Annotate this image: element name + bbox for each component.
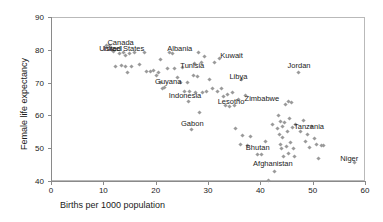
data-point xyxy=(280,125,284,129)
point-label-albania: Albania xyxy=(167,45,192,53)
data-points-layer: CanadaUnited StatesIsraelAlbaniaKuwaitTu… xyxy=(51,17,365,181)
point-label-lesotho: Lesotho xyxy=(218,98,245,106)
data-point xyxy=(114,64,118,68)
data-point xyxy=(126,70,130,74)
y-tick-label: 50 xyxy=(35,144,44,153)
point-label-bhutan: Bhutan xyxy=(246,144,270,152)
y-tick-mark xyxy=(48,17,51,18)
point-label-zimbabwe: Zimbabwe xyxy=(245,95,280,103)
point-label-libya: Libya xyxy=(229,73,247,81)
data-point xyxy=(290,100,294,104)
x-tick-mark xyxy=(208,182,209,185)
x-tick-mark xyxy=(51,182,52,185)
data-point xyxy=(282,154,286,158)
x-tick-label: 10 xyxy=(99,186,108,195)
data-point xyxy=(288,117,292,121)
y-axis-title: Female life expectancy xyxy=(19,34,29,174)
data-point xyxy=(186,99,190,103)
y-tick-mark xyxy=(48,50,51,51)
data-point xyxy=(303,140,307,144)
point-label-guyana: Guyana xyxy=(155,79,181,87)
data-point xyxy=(279,147,283,151)
data-point xyxy=(259,152,263,156)
data-point xyxy=(289,140,293,144)
data-point xyxy=(234,127,238,131)
x-tick-mark xyxy=(260,182,261,185)
point-label-tunisia: Tunisia xyxy=(180,62,204,70)
data-point xyxy=(273,169,277,173)
data-point xyxy=(207,77,211,81)
y-tick-mark xyxy=(48,181,51,182)
data-point xyxy=(285,130,289,134)
point-label-kuwait: Kuwait xyxy=(220,52,243,60)
x-axis-title: Births per 1000 population xyxy=(60,200,165,210)
data-point xyxy=(129,64,133,68)
data-point xyxy=(219,86,223,90)
data-point xyxy=(215,90,219,94)
data-point xyxy=(275,126,279,130)
data-point xyxy=(284,144,288,148)
data-point xyxy=(212,60,216,64)
data-point xyxy=(313,136,317,140)
point-label-israel: Israel xyxy=(104,46,122,54)
data-point xyxy=(157,70,161,74)
y-tick-label: 40 xyxy=(35,177,44,186)
data-point xyxy=(271,122,275,126)
data-point xyxy=(210,86,214,90)
x-tick-mark xyxy=(156,182,157,185)
data-point xyxy=(292,146,296,150)
x-tick-label: 30 xyxy=(204,186,213,195)
data-point xyxy=(205,89,209,93)
scatter-plot-figure: CanadaUnited StatesIsraelAlbaniaKuwaitTu… xyxy=(0,0,383,222)
y-tick-mark xyxy=(48,83,51,84)
data-point xyxy=(230,90,234,94)
data-point xyxy=(185,80,189,84)
data-point xyxy=(151,68,155,72)
data-point xyxy=(293,155,297,159)
x-tick-mark xyxy=(103,182,104,185)
data-point xyxy=(195,74,199,78)
data-point xyxy=(196,50,200,54)
y-tick-mark xyxy=(48,115,51,116)
y-tick-mark xyxy=(48,148,51,149)
point-label-afghanistan: Afghanistan xyxy=(253,160,293,168)
data-point xyxy=(286,151,290,155)
point-label-indonesia: Indonesia xyxy=(169,92,202,100)
data-point xyxy=(166,67,170,71)
data-point xyxy=(307,146,311,150)
data-point xyxy=(240,133,244,137)
data-point xyxy=(296,71,300,75)
x-tick-mark xyxy=(365,182,366,185)
x-tick-label: 40 xyxy=(256,186,265,195)
point-label-tanzania: Tanzania xyxy=(294,123,324,131)
point-label-jordan: Jordan xyxy=(288,62,311,70)
data-point xyxy=(283,103,287,107)
data-point xyxy=(172,66,176,70)
x-tick-mark xyxy=(313,182,314,185)
data-point xyxy=(276,114,280,118)
data-point xyxy=(159,58,163,62)
data-point xyxy=(281,136,285,140)
point-label-niger: Niger xyxy=(340,156,358,164)
x-tick-label: 0 xyxy=(49,186,53,195)
y-tick-label: 80 xyxy=(35,45,44,54)
data-point xyxy=(305,132,309,136)
data-point xyxy=(249,135,253,139)
data-point xyxy=(123,64,127,68)
y-tick-label: 70 xyxy=(35,78,44,87)
x-tick-label: 20 xyxy=(151,186,160,195)
y-tick-label: 60 xyxy=(35,111,44,120)
data-point xyxy=(138,62,142,66)
data-point xyxy=(198,110,202,114)
data-point xyxy=(238,143,242,147)
y-tick-label: 90 xyxy=(35,13,44,22)
data-point xyxy=(203,54,207,58)
x-tick-label: 50 xyxy=(308,186,317,195)
point-label-gabon: Gabon xyxy=(181,120,204,128)
data-point xyxy=(317,156,321,160)
x-tick-label: 60 xyxy=(361,186,370,195)
data-point xyxy=(315,142,319,146)
